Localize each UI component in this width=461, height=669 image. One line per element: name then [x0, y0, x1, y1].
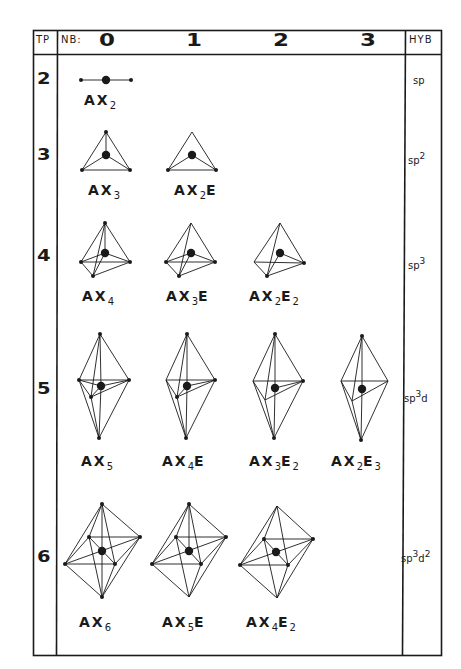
tp-header: TP — [36, 34, 50, 45]
tp-row-2: 2 — [37, 70, 51, 88]
hyb-header: HYB — [409, 34, 433, 45]
tp-row-6: 6 — [37, 548, 51, 566]
formula-AX2E3: AX2E3 — [331, 453, 381, 472]
hyb-row-6: sp3d2 — [401, 549, 430, 564]
formula-AX4: AX4 — [82, 288, 114, 307]
nb-column-3: 3 — [360, 30, 376, 50]
nb-column-1: 1 — [186, 30, 202, 50]
hyb-row-2: sp — [413, 75, 425, 86]
hyb-row-4: sp3 — [408, 256, 425, 271]
tp-row-5: 5 — [37, 380, 51, 398]
formula-AX5: AX5 — [81, 453, 113, 472]
tp-row-4: 4 — [37, 247, 51, 265]
tp-row-3: 3 — [37, 146, 51, 164]
formula-AX2E2: AX2E2 — [249, 288, 299, 307]
formula-AX6: AX6 — [79, 614, 111, 633]
outer-border — [34, 31, 442, 656]
tp-column-divider — [57, 30, 58, 656]
nb-header: NB: — [61, 34, 82, 45]
formula-AX2E: AX2E — [174, 182, 218, 201]
nb-column-2: 2 — [273, 30, 289, 50]
formula-AX4E2: AX4E2 — [246, 614, 296, 633]
formula-AX4E: AX4E — [162, 453, 206, 472]
formula-AX2: AX2 — [84, 92, 116, 111]
formula-AX3: AX3 — [88, 182, 120, 201]
formula-AX5E: AX5E — [162, 614, 206, 633]
hyb-row-5: sp3d — [404, 389, 428, 404]
nb-column-0: 0 — [99, 30, 115, 50]
table-frame — [0, 0, 461, 669]
formula-AX3E2: AX3E2 — [249, 453, 299, 472]
formula-AX3E: AX3E — [166, 288, 210, 307]
hyb-row-3: sp2 — [408, 151, 425, 166]
